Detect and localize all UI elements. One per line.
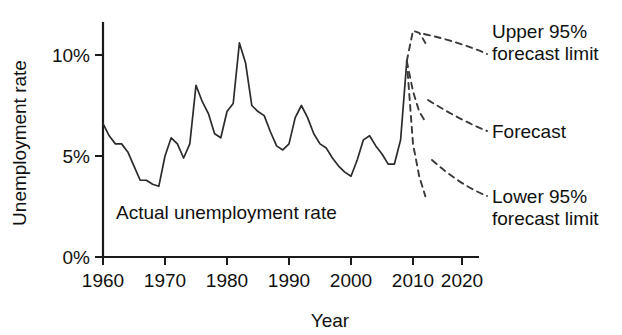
x-tick-label-2000: 2000: [330, 270, 372, 291]
x-tick-labels: 1960 1970 1980 1990 2000 2010 2020: [82, 270, 483, 291]
forecast-leader-line: [428, 100, 487, 131]
lower-95-forecast-limit-line: [407, 61, 426, 196]
x-tick-label-1980: 1980: [206, 270, 248, 291]
upper-limit-annotation-line1: Upper 95%: [492, 21, 587, 42]
forecast-annotation: Forecast: [492, 121, 567, 142]
lower-limit-annotation: Lower 95% forecast limit: [492, 186, 599, 229]
lower-limit-annotation-line2: forecast limit: [492, 208, 599, 229]
upper-95-forecast-limit-line: [407, 31, 426, 61]
actual-series-annotation: Actual unemployment rate: [116, 202, 337, 223]
chart-canvas: 10% 5% 0% 1960 1970 1980 1990 2000 2010 …: [0, 0, 622, 335]
x-axis-title: Year: [311, 310, 350, 331]
y-tick-label-0: 0%: [63, 247, 91, 268]
actual-unemployment-line: [103, 43, 407, 186]
x-tick-label-2020: 2020: [441, 270, 483, 291]
unemployment-forecast-chart: 10% 5% 0% 1960 1970 1980 1990 2000 2010 …: [0, 0, 622, 335]
y-tick-label-5: 5%: [63, 146, 91, 167]
x-tick-label-1990: 1990: [268, 270, 310, 291]
upper-limit-leader-line: [424, 34, 487, 54]
y-axis-title: Unemployment rate: [9, 60, 30, 226]
lower-limit-annotation-line1: Lower 95%: [492, 186, 587, 207]
upper-limit-annotation: Upper 95% forecast limit: [492, 21, 599, 64]
x-tick-label-1970: 1970: [144, 270, 186, 291]
y-tick-labels: 10% 5% 0%: [52, 45, 90, 268]
x-tick-label-2010: 2010: [392, 270, 434, 291]
upper-limit-annotation-line2: forecast limit: [492, 43, 599, 64]
y-tick-label-10: 10%: [52, 45, 90, 66]
x-tick-label-1960: 1960: [82, 270, 124, 291]
forecast-line: [407, 61, 426, 122]
axis-group: [95, 22, 479, 265]
lower-limit-leader-line: [432, 160, 487, 196]
